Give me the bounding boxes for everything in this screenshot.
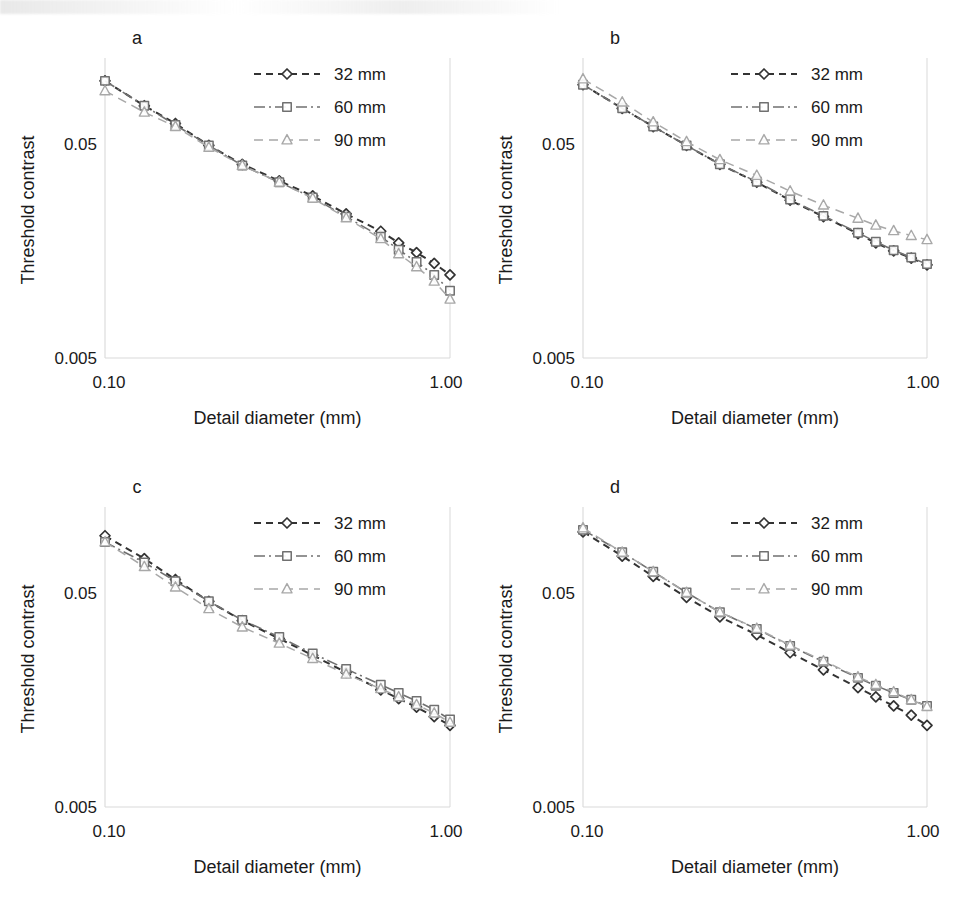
axis-ticks: 0.050.0050.101.00 [54, 135, 462, 392]
series-90-mm [100, 85, 455, 303]
axis-ticks: 0.050.0050.101.00 [532, 584, 939, 841]
axis-ticks: 0.050.0050.101.00 [532, 135, 939, 392]
gridlines [583, 507, 927, 807]
y-axis-title: Threshold contrast [496, 584, 516, 733]
panel-letter: d [610, 477, 620, 497]
legend-label: 32 mm [334, 514, 386, 533]
series-layer [100, 531, 455, 731]
legend-label: 60 mm [811, 98, 863, 117]
legend-label: 60 mm [811, 547, 863, 566]
y-tick-label: 0.005 [54, 798, 97, 817]
data-point [445, 270, 455, 280]
legend-item-32-mm: 32 mm [731, 514, 863, 533]
legend: 32 mm60 mm90 mm [731, 514, 863, 599]
legend-marker-diamond-icon [759, 69, 769, 79]
series-layer [578, 74, 932, 270]
x-tick-label: 1.00 [429, 373, 462, 392]
x-axis-title: Detail diameter (mm) [193, 408, 361, 428]
chart-panel-d: 0.050.0050.101.00Detail diameter (mm)Thr… [478, 449, 955, 898]
data-point [785, 186, 795, 195]
legend-marker-diamond-icon [282, 518, 292, 528]
y-tick-label: 0.005 [532, 798, 575, 817]
x-axis-title: Detail diameter (mm) [671, 857, 839, 877]
data-point [889, 701, 899, 711]
legend: 32 mm60 mm90 mm [731, 65, 863, 150]
legend-marker-triangle-icon [282, 584, 292, 593]
series-line [583, 79, 927, 240]
panel-d-canvas: 0.050.0050.101.00Detail diameter (mm)Thr… [478, 449, 955, 898]
x-tick-label: 0.10 [92, 373, 125, 392]
data-point [889, 225, 899, 234]
x-tick-label: 0.10 [570, 373, 603, 392]
panel-c-canvas: 0.050.0050.101.00Detail diameter (mm)Thr… [0, 449, 478, 898]
data-point [871, 692, 881, 702]
legend-item-90-mm: 90 mm [254, 580, 386, 599]
axis-ticks: 0.050.0050.101.00 [54, 584, 462, 841]
legend-label: 60 mm [334, 547, 386, 566]
data-point [578, 74, 588, 83]
chart-panel-c: 0.050.0050.101.00Detail diameter (mm)Thr… [0, 449, 478, 898]
y-tick-label: 0.05 [64, 135, 97, 154]
x-tick-label: 1.00 [906, 822, 939, 841]
series-90-mm [578, 74, 932, 244]
gridlines [583, 58, 927, 358]
legend-marker-triangle-icon [759, 135, 769, 144]
legend-label: 90 mm [334, 131, 386, 150]
x-tick-label: 1.00 [906, 373, 939, 392]
figure-panel-grid: 0.050.0050.101.00Detail diameter (mm)Thr… [0, 0, 955, 898]
data-point [922, 720, 932, 730]
legend-label: 90 mm [811, 131, 863, 150]
y-tick-label: 0.005 [532, 349, 575, 368]
legend-marker-square-icon [760, 103, 768, 111]
data-point [101, 77, 109, 85]
x-axis-title: Detail diameter (mm) [193, 857, 361, 877]
data-point [906, 710, 916, 720]
panel-a-canvas: 0.050.0050.101.00Detail diameter (mm)Thr… [0, 0, 478, 449]
data-point [617, 97, 627, 106]
data-point [819, 212, 827, 220]
data-point [907, 253, 915, 261]
legend-marker-diamond-icon [282, 69, 292, 79]
gridlines [105, 58, 450, 358]
data-point [872, 238, 880, 246]
legend-marker-square-icon [760, 552, 768, 560]
legend-item-32-mm: 32 mm [731, 65, 863, 84]
series-layer [100, 76, 455, 303]
series-layer [578, 523, 932, 731]
data-point [648, 117, 658, 126]
legend-item-90-mm: 90 mm [731, 580, 863, 599]
legend-item-60-mm: 60 mm [254, 98, 386, 117]
panel-letter: a [132, 28, 143, 48]
legend-item-32-mm: 32 mm [254, 65, 386, 84]
data-point [100, 85, 110, 94]
legend-marker-diamond-icon [759, 518, 769, 528]
y-tick-label: 0.05 [64, 584, 97, 603]
data-point [854, 228, 862, 236]
panel-b-canvas: 0.050.0050.101.00Detail diameter (mm)Thr… [478, 0, 955, 449]
chart-panel-b: 0.050.0050.101.00Detail diameter (mm)Thr… [478, 0, 955, 449]
legend-label: 60 mm [334, 98, 386, 117]
legend-marker-square-icon [283, 103, 291, 111]
y-axis-title: Threshold contrast [496, 135, 516, 284]
legend-label: 32 mm [334, 65, 386, 84]
legend-item-60-mm: 60 mm [254, 547, 386, 566]
panel-letter: b [610, 28, 620, 48]
legend-label: 32 mm [811, 65, 863, 84]
legend-marker-triangle-icon [759, 584, 769, 593]
data-point [715, 154, 725, 163]
data-point [412, 248, 422, 258]
y-axis-title: Threshold contrast [18, 135, 38, 284]
legend-marker-triangle-icon [282, 135, 292, 144]
legend-label: 90 mm [334, 580, 386, 599]
data-point [889, 246, 897, 254]
data-point [429, 258, 439, 268]
data-point [871, 220, 881, 229]
legend-label: 32 mm [811, 514, 863, 533]
y-tick-label: 0.05 [542, 135, 575, 154]
data-point [923, 260, 931, 268]
x-tick-label: 0.10 [92, 822, 125, 841]
legend-item-90-mm: 90 mm [254, 131, 386, 150]
y-tick-label: 0.05 [542, 584, 575, 603]
panel-letter: c [133, 477, 142, 497]
legend-marker-square-icon [283, 552, 291, 560]
